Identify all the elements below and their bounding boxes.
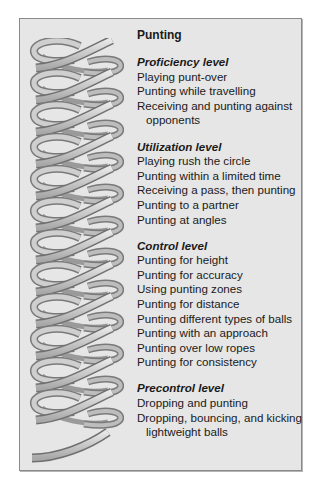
list-item: Punting different types of balls	[137, 312, 302, 327]
section-utilization: Utilization level Playing rush the circl…	[137, 140, 302, 228]
item-text: Punting for height	[137, 253, 228, 266]
list-item: Punting to a partner	[137, 198, 302, 213]
item-text-continued: lightweight balls	[137, 425, 302, 440]
list-item: Dropping, bouncing, and kickinglightweig…	[137, 411, 302, 440]
skill-list: Punting Proficiency level Playing punt-o…	[137, 28, 302, 451]
section-control: Control level Punting for height Punting…	[137, 239, 302, 370]
list-item: Playing punt-over	[137, 70, 302, 85]
section-heading: Proficiency level	[137, 55, 302, 70]
item-text: Punting while travelling	[137, 84, 256, 97]
item-text: Punting for distance	[137, 297, 239, 310]
section-heading: Precontrol level	[137, 381, 302, 396]
item-text: Punting for consistency	[137, 355, 257, 368]
item-text: Punting within a limited time	[137, 169, 281, 182]
list-item: Using punting zones	[137, 282, 302, 297]
page-title: Punting	[137, 28, 302, 43]
list-item: Punting within a limited time	[137, 169, 302, 184]
section-heading: Utilization level	[137, 140, 302, 155]
item-text: Punting to a partner	[137, 198, 239, 211]
item-text: Punting over low ropes	[137, 341, 255, 354]
list-item: Punting at angles	[137, 213, 302, 228]
section-precontrol: Precontrol level Dropping and punting Dr…	[137, 381, 302, 439]
item-text: Punting at angles	[137, 213, 227, 226]
item-text-continued: opponents	[137, 113, 302, 128]
twisted-ribbon-icon	[28, 38, 124, 468]
list-item: Receiving a pass, then punting	[137, 183, 302, 198]
list-item: Playing rush the circle	[137, 154, 302, 169]
item-text: Playing punt-over	[137, 70, 227, 83]
list-item: Punting while travelling	[137, 84, 302, 99]
list-item: Dropping and punting	[137, 396, 302, 411]
item-text: Punting for accuracy	[137, 268, 243, 281]
item-text: Receiving and punting against	[137, 99, 292, 112]
list-item: Punting with an approach	[137, 326, 302, 341]
list-item: Punting over low ropes	[137, 341, 302, 356]
list-item: Receiving and punting againstopponents	[137, 99, 302, 128]
list-item: Punting for accuracy	[137, 268, 302, 283]
item-text: Receiving a pass, then punting	[137, 183, 296, 196]
item-text: Dropping, bouncing, and kicking	[137, 411, 302, 424]
section-proficiency: Proficiency level Playing punt-over Punt…	[137, 55, 302, 128]
item-text: Punting with an approach	[137, 326, 268, 339]
item-text: Dropping and punting	[137, 396, 248, 409]
list-item: Punting for consistency	[137, 355, 302, 370]
list-item: Punting for distance	[137, 297, 302, 312]
item-text: Playing rush the circle	[137, 154, 250, 167]
item-text: Punting different types of balls	[137, 312, 292, 325]
item-text: Using punting zones	[137, 282, 242, 295]
section-heading: Control level	[137, 239, 302, 254]
list-item: Punting for height	[137, 253, 302, 268]
